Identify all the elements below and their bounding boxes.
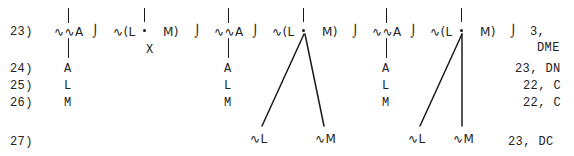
branch-right-to-negL xyxy=(420,34,462,126)
justification-23-DC: 23, DC xyxy=(508,136,554,148)
derivation-page: 23) 24) 25) 26) 27) ∿∿A ⌡ ∿(L M) ⌡ ∿∿A ⌡… xyxy=(0,0,574,156)
justification-DME: DME xyxy=(537,42,560,54)
justification-22-C-2: 22, C xyxy=(523,97,561,109)
leaf-left-negL: ∿L xyxy=(250,133,268,145)
branch-tree-right xyxy=(0,0,574,156)
justification-22-C-1: 22, C xyxy=(523,80,561,92)
leaf-right-negL: ∿L xyxy=(408,133,426,145)
leaf-left-negM: ∿M xyxy=(315,133,336,145)
leaf-right-negM: ∿M xyxy=(453,133,474,145)
justification-23-DN: 23, DN xyxy=(515,63,561,75)
